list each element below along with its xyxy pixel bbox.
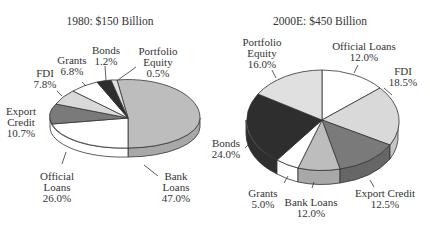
label-grants-pct-2000: 5.0% [252,198,275,210]
label-bl-pct: 47.0% [162,192,190,204]
label-ol-pct: 26.0% [43,192,71,204]
label-pe-pct: 0.5% [147,67,170,79]
label-ec-pct-2000: 12.5% [371,198,399,210]
label-bonds-pct-2000: 24.0% [212,148,240,160]
label-ol-pct-2000: 12.0% [350,51,378,63]
label-fdi-pct: 7.8% [34,78,57,90]
label-pe-pct-2000: 16.0% [248,58,276,70]
label-ec-pct: 10.7% [7,127,35,139]
label-bl-pct-2000: 12.0% [297,207,325,219]
pie-1980 [50,66,200,176]
pie-2000 [245,65,399,188]
label-bonds-pct: 1.2% [95,55,118,67]
label-grants-pct: 6.8% [61,65,84,77]
chart-title-1980: 1980: $150 Billion [67,15,154,27]
label-fdi-pct-2000: 18.5% [389,76,417,88]
chart-title-2000: 2000E: $450 Billion [273,15,367,27]
charts-canvas: 1980: $150 Billion Bonds 1.2% Portfolio … [0,0,430,231]
